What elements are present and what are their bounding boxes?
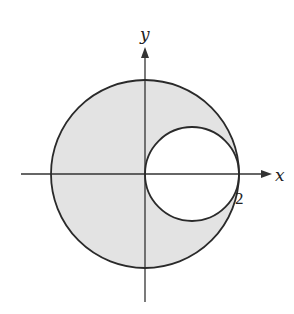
y-axis-label: y xyxy=(139,24,150,44)
x-axis-label: x xyxy=(275,165,285,185)
x-tick-label-2: 2 xyxy=(235,189,244,208)
x-axis-arrow-icon xyxy=(261,170,272,178)
diagram-canvas: y x 2 xyxy=(0,0,294,314)
y-axis-arrow-icon xyxy=(141,47,149,58)
